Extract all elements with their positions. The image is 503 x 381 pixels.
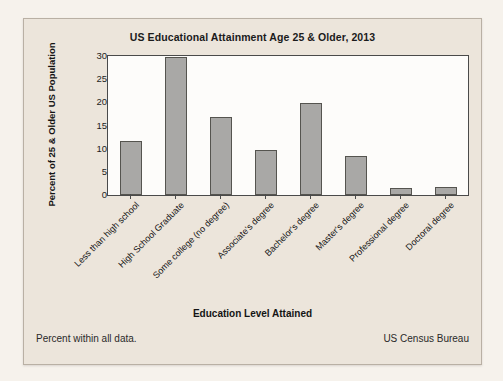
x-tick-mark (175, 194, 176, 199)
y-tick-label: 10 (85, 142, 107, 153)
bar-slot (198, 56, 243, 195)
bars-layer (108, 56, 468, 195)
y-axis-title-text: Percent of 25 & Older US Population (46, 42, 57, 206)
footer-note: Percent within all data. (36, 333, 137, 344)
y-tick-label: 0 (85, 189, 107, 200)
bar-slot (378, 56, 423, 195)
bar[interactable] (345, 156, 367, 195)
chart-card: US Educational Attainment Age 25 & Older… (23, 18, 482, 365)
chart-screenshot: US Educational Attainment Age 25 & Older… (0, 0, 503, 381)
plot-area (107, 55, 469, 196)
y-tick-label: 15 (85, 119, 107, 130)
x-tick-label: Doctoral degree (403, 200, 455, 252)
chart-title: US Educational Attainment Age 25 & Older… (24, 31, 481, 43)
x-axis-labels: Less than high schoolHigh School Graduat… (107, 200, 487, 296)
x-tick-mark (265, 194, 266, 199)
y-axis-title: Percent of 25 & Older US Population (38, 55, 64, 194)
x-tick-mark (445, 194, 446, 199)
bar-slot (423, 56, 468, 195)
bar-slot (243, 56, 288, 195)
bar-slot (333, 56, 378, 195)
x-tick-mark (355, 194, 356, 199)
bar[interactable] (120, 141, 142, 195)
y-tick-label: 30 (85, 50, 107, 61)
footer-source: US Census Bureau (383, 333, 469, 344)
x-tick-mark (400, 194, 401, 199)
y-axis-ticks: 051015202530 (79, 55, 107, 194)
bar-slot (288, 56, 333, 195)
y-tick-label: 25 (85, 73, 107, 84)
bar[interactable] (255, 150, 277, 195)
bar[interactable] (210, 117, 232, 195)
bar[interactable] (165, 57, 187, 195)
x-axis-title: Education Level Attained (24, 308, 481, 319)
bar-slot (108, 56, 153, 195)
x-tick-mark (220, 194, 221, 199)
y-tick-label: 20 (85, 96, 107, 107)
bar-slot (153, 56, 198, 195)
bar[interactable] (300, 103, 322, 195)
x-tick-mark (310, 194, 311, 199)
x-tick-label: Some college (no degree) (150, 200, 230, 280)
y-tick-label: 5 (85, 165, 107, 176)
x-tick-mark (130, 194, 131, 199)
